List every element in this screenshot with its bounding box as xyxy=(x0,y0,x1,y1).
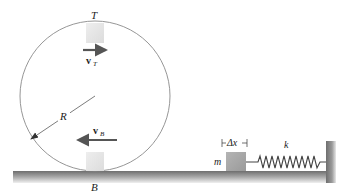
label-spring-constant: k xyxy=(284,139,289,150)
label-v-bottom: v xyxy=(93,125,98,136)
ground xyxy=(13,171,331,183)
label-v-bottom-sub: B xyxy=(100,130,105,138)
label-radius: R xyxy=(59,110,67,122)
block-at-bottom xyxy=(86,152,104,171)
label-v-top: v xyxy=(86,55,91,66)
label-compression: Δx xyxy=(226,137,238,148)
label-bottom: B xyxy=(91,181,98,193)
spring xyxy=(246,156,326,168)
label-v-top-sub: T xyxy=(93,60,98,68)
mass-block xyxy=(226,152,246,171)
label-top: T xyxy=(91,9,98,21)
label-mass: m xyxy=(214,156,221,167)
block-at-top xyxy=(86,23,104,43)
loop-track-diagram: T v T R v B B m Δx k xyxy=(0,0,352,195)
wall xyxy=(326,141,336,183)
